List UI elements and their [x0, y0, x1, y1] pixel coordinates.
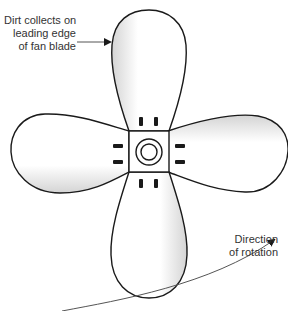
dirt-annotation: Dirt collects on leading edge of fan bla… — [4, 14, 76, 53]
fan-blade-bottom — [111, 172, 187, 298]
bolt-left-bottom — [113, 160, 123, 164]
fan-blade-top — [112, 10, 187, 131]
bolt-right-top — [175, 144, 185, 148]
dirt-annotation-line1: Dirt collects on — [4, 14, 76, 27]
bolt-left-top — [113, 144, 123, 148]
rotation-annotation-line2: of rotation — [210, 246, 278, 259]
fan-blade-left — [11, 114, 129, 193]
fan-blade-right — [168, 115, 288, 192]
rotation-annotation: Direction of rotation — [210, 233, 278, 259]
rotation-annotation-line1: Direction — [210, 233, 278, 246]
bolt-right-bottom — [175, 160, 185, 164]
hub-inner-ring — [141, 144, 157, 160]
bolt-top-right — [154, 117, 158, 126]
dirt-annotation-line3: of fan blade — [4, 40, 76, 53]
bolt-bottom-left — [139, 179, 143, 188]
dirt-annotation-line2: leading edge — [4, 27, 76, 40]
bolt-top-left — [139, 117, 143, 126]
bolt-bottom-right — [154, 179, 158, 188]
